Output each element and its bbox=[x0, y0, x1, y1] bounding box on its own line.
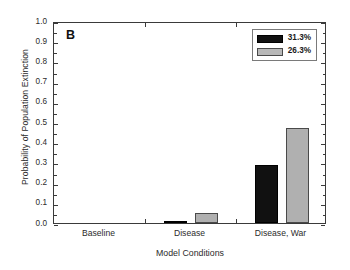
legend-swatch-gray bbox=[257, 48, 283, 56]
y-tick-major-right bbox=[321, 104, 325, 105]
chart-legend: 31.3% 26.3% bbox=[252, 29, 317, 61]
y-tick-label: 0.9 bbox=[7, 38, 47, 46]
y-tick-minor-right bbox=[323, 195, 326, 196]
y-tick-major-right bbox=[321, 84, 325, 85]
y-tick-minor-right bbox=[323, 94, 326, 95]
y-tick-major-right bbox=[321, 124, 325, 125]
x-tick-top bbox=[145, 23, 146, 27]
y-tick-major-right bbox=[321, 144, 325, 145]
bar-gray bbox=[286, 128, 309, 223]
bar-gray bbox=[195, 213, 218, 223]
y-tick-major-right bbox=[321, 225, 325, 226]
y-tick-minor-right bbox=[323, 114, 326, 115]
y-tick-major-right bbox=[321, 164, 325, 165]
legend-label: 26.3% bbox=[288, 47, 311, 55]
y-tick-minor-right bbox=[323, 33, 326, 34]
y-tick-label: 0.1 bbox=[7, 199, 47, 207]
y-tick-minor bbox=[54, 215, 57, 216]
y-tick-label: 0.7 bbox=[7, 78, 47, 86]
x-tick bbox=[145, 219, 146, 223]
legend-label: 31.3% bbox=[288, 34, 311, 42]
y-tick-minor bbox=[54, 33, 57, 34]
legend-swatch-black bbox=[257, 35, 283, 43]
legend-item: 31.3% bbox=[257, 33, 311, 44]
x-category-label: Disease, War bbox=[221, 228, 341, 238]
y-tick-major bbox=[54, 104, 58, 105]
y-tick-label: 0.4 bbox=[7, 139, 47, 147]
legend-item: 26.3% bbox=[257, 46, 311, 57]
y-tick-major bbox=[54, 63, 58, 64]
y-tick-label: 0.2 bbox=[7, 179, 47, 187]
y-tick-minor-right bbox=[323, 134, 326, 135]
y-tick-minor bbox=[54, 114, 57, 115]
y-tick-minor bbox=[54, 195, 57, 196]
x-tick bbox=[236, 219, 237, 223]
figure-panel-b: Probability of Population Extinction B 3… bbox=[0, 0, 350, 270]
y-tick-major bbox=[54, 225, 58, 226]
y-tick-major bbox=[54, 43, 58, 44]
y-tick-minor bbox=[54, 175, 57, 176]
y-tick-minor bbox=[54, 53, 57, 54]
y-tick-minor-right bbox=[323, 175, 326, 176]
y-tick-label: 1.0 bbox=[7, 18, 47, 26]
y-tick-minor bbox=[54, 134, 57, 135]
y-tick-major bbox=[54, 144, 58, 145]
y-tick-major-right bbox=[321, 63, 325, 64]
plot-area: B 31.3% 26.3% bbox=[53, 22, 326, 224]
y-tick-major bbox=[54, 23, 58, 24]
y-tick-minor bbox=[54, 74, 57, 75]
y-tick-major bbox=[54, 124, 58, 125]
y-tick-minor-right bbox=[323, 215, 326, 216]
y-tick-major bbox=[54, 205, 58, 206]
x-axis-title: Model Conditions bbox=[53, 248, 327, 258]
x-tick-top bbox=[236, 23, 237, 27]
y-tick-label: 0.5 bbox=[7, 119, 47, 127]
y-tick-minor-right bbox=[323, 154, 326, 155]
y-tick-label: 0.3 bbox=[7, 159, 47, 167]
y-tick-minor-right bbox=[323, 53, 326, 54]
y-tick-major bbox=[54, 185, 58, 186]
bar-black bbox=[164, 221, 187, 223]
y-tick-major-right bbox=[321, 205, 325, 206]
panel-label: B bbox=[66, 28, 75, 42]
y-tick-label: 0.6 bbox=[7, 98, 47, 106]
y-tick-major-right bbox=[321, 43, 325, 44]
y-tick-minor bbox=[54, 94, 57, 95]
y-tick-major bbox=[54, 84, 58, 85]
bar-black bbox=[255, 165, 278, 223]
y-tick-major-right bbox=[321, 185, 325, 186]
y-tick-major bbox=[54, 164, 58, 165]
y-tick-minor-right bbox=[323, 74, 326, 75]
y-tick-major-right bbox=[321, 23, 325, 24]
y-tick-minor bbox=[54, 154, 57, 155]
y-tick-label: 0.8 bbox=[7, 58, 47, 66]
y-tick-label: 0.0 bbox=[7, 220, 47, 228]
